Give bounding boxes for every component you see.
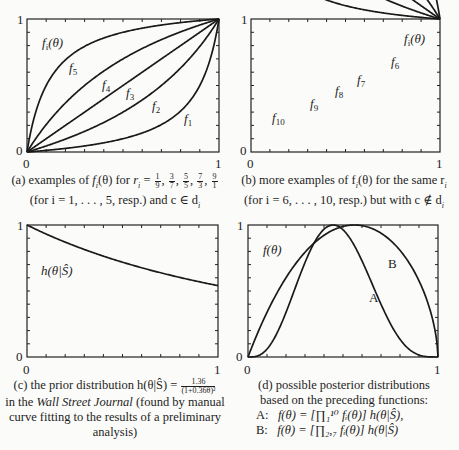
caption-c-fraction: 1.36(1+0.36θ)² — [181, 378, 215, 395]
caption-d-formula-a: A: f(θ) = [∏₁¹⁰ fᵢ(θ)] h(θ|Ŝ), — [232, 408, 456, 423]
caption-b: (b) more examples of fi(θ) for the same … — [232, 173, 456, 212]
caption-c-line3: curve fitting to the results of a prelim… — [2, 410, 228, 425]
label-f8: f8 — [335, 83, 344, 100]
caption-d: (d) possible posterior distributions bas… — [232, 378, 456, 438]
caption-a-fraction: 91 — [212, 173, 218, 190]
panel-a-x-min: 0 — [23, 156, 30, 171]
panel-a-x-max: 1 — [215, 156, 222, 171]
label-f5: f5 — [69, 60, 78, 77]
panel-b-y-max: 1 — [241, 12, 248, 27]
caption-a-fraction: 73 — [197, 173, 203, 190]
caption-d-line1: (d) possible posterior distributions — [232, 378, 456, 393]
panel-c-frame — [27, 225, 218, 357]
caption-a-fraction: 55 — [183, 173, 189, 190]
caption-a-fractions: 19, 37, 55, 73, 91 — [154, 173, 219, 187]
panel-d-y-min: 0 — [236, 349, 243, 364]
caption-b-line1: (b) more examples of fi(θ) for the same … — [232, 173, 456, 193]
panel-d-x-min: 0 — [244, 362, 251, 377]
caption-c-line1: (c) the prior distribution h(θ|Ŝ) = 1.36… — [2, 378, 228, 395]
label-f7: f7 — [357, 72, 366, 89]
label-f1: f1 — [184, 111, 192, 128]
label-curve-a: A — [369, 290, 379, 305]
panel-c-x-min: 0 — [23, 362, 30, 377]
panel-d-x-max: 1 — [434, 362, 441, 377]
panel-a-y-min: 0 — [16, 143, 23, 158]
panel-a-main-label: fi(θ) — [42, 35, 63, 52]
panel-a-plot: 1 0 0 1 fi(θ) f5 f4 f3 f2 f1 — [16, 12, 222, 171]
panel-a-y-max: 1 — [17, 12, 24, 27]
label-f10: f10 — [272, 110, 285, 127]
panel-c-ticks — [27, 225, 218, 357]
panel-c-y-max: 1 — [17, 218, 24, 233]
label-f9: f9 — [310, 96, 319, 113]
caption-c: (c) the prior distribution h(θ|Ŝ) = 1.36… — [2, 378, 228, 440]
panel-d-y-max: 1 — [237, 218, 244, 233]
caption-a-line1: (a) examples of fi(θ) for ri = 19, 37, 5… — [2, 173, 228, 193]
caption-c-line4: analysis) — [2, 425, 228, 440]
label-f4: f4 — [102, 77, 111, 94]
panel-b-main-label: fi(θ) — [404, 31, 425, 48]
caption-a-line2: (for i = 1, . . . , 5, resp.) and c ∈ di — [2, 193, 228, 213]
panel-c-x-max: 1 — [214, 362, 221, 377]
label-curve-b: B — [388, 256, 397, 271]
caption-a: (a) examples of fi(θ) for ri = 19, 37, 5… — [2, 173, 228, 212]
caption-d-line2: based on the preceding functions: — [232, 393, 456, 408]
panel-c-main-label: h(θ|Ŝ) — [41, 263, 73, 278]
panel-c-y-min: 0 — [16, 349, 23, 364]
label-f6: f6 — [391, 54, 400, 71]
caption-a-fraction: 19 — [155, 173, 161, 190]
label-f2: f2 — [152, 98, 160, 115]
caption-b-line2: (for i = 6, . . . , 10, resp.) but with … — [232, 193, 456, 213]
panel-b-y-min: 0 — [240, 143, 247, 158]
caption-d-formula-b: B: f(θ) = [∏₂,₇ fᵢ(θ)] h(θ|Ŝ) — [232, 423, 456, 438]
panel-b-x-max: 1 — [436, 156, 443, 171]
panel-b-curves — [251, 0, 440, 19]
panel-b-plot: 1 0 0 1 fi(θ) f6 f7 f8 f9 f10 — [240, 0, 443, 171]
label-f3: f3 — [126, 85, 135, 102]
panel-d-plot: 1 0 0 1 f(θ) B A — [236, 218, 441, 377]
panel-b-x-min: 0 — [247, 156, 254, 171]
panel-c-plot: 1 0 0 1 h(θ|Ŝ) — [16, 218, 221, 377]
caption-a-fraction: 37 — [169, 173, 175, 190]
panel-d-main-label: f(θ) — [263, 242, 282, 257]
caption-c-line2: in the Wall Street Journal (found by man… — [2, 395, 228, 410]
